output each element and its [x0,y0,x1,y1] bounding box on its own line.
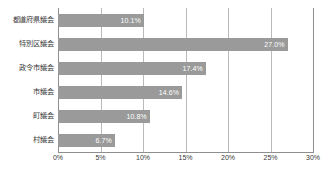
bar-value-label: 10.8% [126,113,149,120]
x-tick-label: 15% [178,154,192,161]
category-label-row: 町議会 [0,104,58,128]
x-tick-label: 5% [95,154,105,161]
category-label-row: 村議会 [0,128,58,152]
x-axis-tick-labels: 0%5%10%15%20%25%30% [58,154,313,166]
category-label: 市議会 [33,88,54,95]
bar-chart: 都道府県議会特別区議会政令市議会市議会町議会村議会 10.1%27.0%17.4… [0,0,327,177]
bar-value-label: 27.0% [264,41,287,48]
category-label: 町議会 [33,112,54,119]
bar-value-label: 17.4% [183,65,206,72]
bar: 10.1% [58,14,144,27]
bar-row: 17.4% [58,56,313,80]
bar-row: 27.0% [58,32,313,56]
category-label-row: 市議会 [0,80,58,104]
plot-area: 10.1%27.0%17.4%14.6%10.8%6.7% [58,8,313,152]
bar-row: 10.8% [58,104,313,128]
bar-value-label: 14.6% [159,89,182,96]
bar-value-label: 10.1% [120,17,143,24]
category-label-row: 政令市議会 [0,56,58,80]
bar-row: 14.6% [58,80,313,104]
bar: 14.6% [58,86,182,99]
bar: 10.8% [58,110,150,123]
category-axis: 都道府県議会特別区議会政令市議会市議会町議会村議会 [0,8,58,152]
x-tick-label: 10% [136,154,150,161]
x-tick-label: 30% [306,154,320,161]
category-label: 都道府県議会 [13,16,54,23]
x-tick-label: 0% [53,154,63,161]
category-label: 政令市議会 [19,64,54,71]
category-label-row: 特別区議会 [0,32,58,56]
bar-row: 10.1% [58,8,313,32]
bar-value-label: 6.7% [96,137,115,144]
category-label: 特別区議会 [19,40,54,47]
bar: 27.0% [58,38,288,51]
x-axis-line [58,152,314,153]
gridline [313,8,314,152]
category-label-row: 都道府県議会 [0,8,58,32]
category-label: 村議会 [33,136,54,143]
x-tick-label: 25% [263,154,277,161]
x-tick-label: 20% [221,154,235,161]
bar: 6.7% [58,134,115,147]
bar-row: 6.7% [58,128,313,152]
bars-container: 10.1%27.0%17.4%14.6%10.8%6.7% [58,8,313,152]
bar: 17.4% [58,62,206,75]
